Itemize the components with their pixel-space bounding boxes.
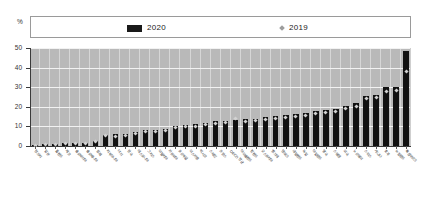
bar-2020[interactable] (373, 95, 378, 146)
y-axis-unit-label: % (17, 18, 23, 25)
category-label-slot: 라트비아 (164, 149, 174, 207)
bar-series-container (30, 48, 411, 146)
bar-slot[interactable] (80, 48, 90, 146)
bar-2020[interactable] (343, 106, 348, 146)
bar-slot[interactable] (261, 48, 271, 146)
bar-2020[interactable] (223, 121, 228, 146)
category-label: 체코 (63, 150, 70, 157)
category-label: 영국 (321, 150, 328, 157)
bar-slot[interactable] (291, 48, 301, 146)
bar-2020[interactable] (253, 119, 258, 146)
legend-bar-swatch-icon (127, 25, 142, 32)
category-label-slot: 노르웨이 (349, 149, 359, 207)
bar-2020[interactable] (333, 109, 338, 146)
bar-slot[interactable] (341, 48, 351, 146)
legend-item-2020[interactable]: 2020 (127, 17, 166, 39)
category-label-slot: 아일랜드 (308, 149, 318, 207)
bar-slot[interactable] (100, 48, 110, 146)
category-label-slot: 체코 (61, 149, 71, 207)
bar-slot[interactable] (371, 48, 381, 146)
category-label-slot: 그리스 (143, 149, 153, 207)
y-axis-tick-label: 50 (2, 45, 22, 52)
bar-slot[interactable] (60, 48, 70, 146)
bar-2020[interactable] (263, 117, 268, 146)
bar-slot[interactable] (251, 48, 261, 146)
category-label-slot: 폴란드 (51, 149, 61, 207)
y-axis-tick-label: 30 (2, 84, 22, 91)
category-label-slot: 슬로바키아 (71, 149, 81, 207)
bar-2020[interactable] (363, 96, 368, 146)
legend-diamond-dot-icon (279, 25, 285, 31)
bar-2020[interactable] (233, 120, 238, 146)
bar-slot[interactable] (150, 48, 160, 146)
category-label-slot: 한국 (123, 149, 133, 207)
category-label-slot: 헝가리 (30, 149, 40, 207)
bar-slot[interactable] (191, 48, 201, 146)
bar-slot[interactable] (311, 48, 321, 146)
bar-slot[interactable] (201, 48, 211, 146)
category-label-slot: 아이슬란드 (236, 149, 246, 207)
bar-slot[interactable] (221, 48, 231, 146)
bar-slot[interactable] (351, 48, 361, 146)
bar-slot[interactable] (321, 48, 331, 146)
legend-label-2020: 2020 (147, 24, 166, 32)
category-label-slot: 터키 (112, 149, 122, 207)
legend-item-2019[interactable]: 2019 (280, 17, 308, 39)
category-label-slot: 네덜란드 (287, 149, 297, 207)
category-label: 룩셈부르크 (403, 150, 416, 163)
category-label-slot: 슬로베니아 (81, 149, 91, 207)
bar-slot[interactable] (90, 48, 100, 146)
bar-slot[interactable] (401, 48, 411, 146)
bar-slot[interactable] (160, 48, 170, 146)
bar-slot[interactable] (231, 48, 241, 146)
category-label-slot: 리투아니아 (102, 149, 112, 207)
category-label: 일본 (43, 150, 50, 157)
bar-2020[interactable] (303, 113, 308, 146)
bar-slot[interactable] (110, 48, 120, 146)
category-label-slot: 벨기에 (267, 149, 277, 207)
category-label-slot: 캐나다 (370, 149, 380, 207)
category-label-slot: 스페인 (205, 149, 215, 207)
category-label-slot: 뉴질랜드 (390, 149, 400, 207)
x-axis-line (30, 146, 411, 147)
y-axis-tick-label: 10 (2, 123, 22, 130)
bar-slot[interactable] (170, 48, 180, 146)
bar-slot[interactable] (70, 48, 80, 146)
category-label-slot: 미국 (339, 149, 349, 207)
bar-slot[interactable] (271, 48, 281, 146)
bar-slot[interactable] (241, 48, 251, 146)
bar-slot[interactable] (180, 48, 190, 146)
bar-2020[interactable] (323, 110, 328, 146)
bar-slot[interactable] (391, 48, 401, 146)
chart-screenshot: % 2020 2019 01020304050 헝가리일본폴란드체코슬로바키아슬… (0, 0, 426, 208)
bar-slot[interactable] (301, 48, 311, 146)
bar-2020[interactable] (283, 115, 288, 146)
bar-slot[interactable] (30, 48, 40, 146)
category-label-slot: 멕시코 (195, 149, 205, 207)
marker-2019[interactable] (354, 104, 358, 108)
chart-legend: 2020 2019 (30, 16, 411, 38)
bar-slot[interactable] (381, 48, 391, 146)
bar-slot[interactable] (211, 48, 221, 146)
bar-slot[interactable] (40, 48, 50, 146)
bar-2020[interactable] (313, 111, 318, 146)
category-label-slot: 덴마크 (277, 149, 287, 207)
bar-2020[interactable] (383, 87, 388, 146)
category-label-slot: 호주 (380, 149, 390, 207)
category-label: 한국 (125, 150, 132, 157)
bar-2020[interactable] (403, 51, 408, 146)
bar-slot[interactable] (50, 48, 60, 146)
bar-slot[interactable] (331, 48, 341, 146)
y-axis-tick-label: 40 (2, 65, 22, 72)
x-axis-category-labels: 헝가리일본폴란드체코슬로바키아슬로베니아칠레리투아니아터키한국에스토니아그리스이… (30, 149, 411, 207)
bar-slot[interactable] (140, 48, 150, 146)
category-label-slot: 일본 (40, 149, 50, 207)
bar-slot[interactable] (120, 48, 130, 146)
bar-2020[interactable] (353, 103, 358, 146)
category-label-slot: 독일 (298, 149, 308, 207)
bar-2020[interactable] (393, 87, 398, 146)
bar-slot[interactable] (281, 48, 291, 146)
bar-slot[interactable] (130, 48, 140, 146)
bar-slot[interactable] (361, 48, 371, 146)
bar-2020[interactable] (293, 114, 298, 146)
